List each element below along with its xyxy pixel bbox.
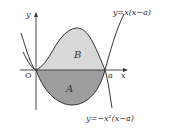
a-label: a xyxy=(108,71,113,80)
origin-label: O xyxy=(25,71,32,80)
y-axis-arrow xyxy=(34,12,38,17)
area-diagram: y x O a B A y=x(x−a) y=−x²(x−a) xyxy=(0,0,170,129)
region-b xyxy=(36,28,105,70)
region-b-label: B xyxy=(73,49,81,60)
cubic-equation: y=−x²(x−a) xyxy=(85,114,134,123)
region-a-label: A xyxy=(65,83,73,94)
x-axis-label: x xyxy=(121,71,126,80)
y-axis-label: y xyxy=(25,10,31,19)
parabola-equation: y=x(x−a) xyxy=(112,8,151,17)
